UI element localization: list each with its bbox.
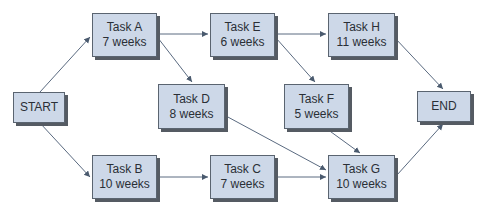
node-duration: 10 weeks (99, 177, 150, 192)
network-diagram: START Task A 7 weeks Task B 10 weeks Tas… (0, 0, 483, 209)
node-end: END (417, 91, 471, 122)
node-task-f: Task F 5 weeks (284, 84, 349, 129)
edge-start-a (40, 37, 90, 92)
node-task-a: Task A 7 weeks (92, 13, 157, 57)
node-task-b: Task B 10 weeks (92, 155, 157, 199)
node-task-g: Task G 10 weeks (328, 155, 395, 199)
edge-a-d (158, 38, 192, 82)
node-duration: 7 weeks (220, 177, 264, 192)
node-label: Task H (343, 20, 380, 35)
edge-g-end (397, 124, 443, 175)
edge-f-g (327, 129, 360, 153)
node-duration: 7 weeks (102, 35, 146, 50)
node-label: START (20, 100, 58, 115)
node-task-c: Task C 7 weeks (210, 155, 275, 199)
node-label: Task D (173, 92, 210, 107)
node-duration: 10 weeks (336, 177, 387, 192)
node-label: Task F (299, 92, 334, 107)
node-label: Task G (343, 162, 380, 177)
node-duration: 8 weeks (169, 107, 213, 122)
node-label: Task C (224, 162, 261, 177)
node-duration: 5 weeks (294, 107, 338, 122)
node-task-h: Task H 11 weeks (328, 13, 395, 57)
node-start: START (13, 92, 65, 123)
node-duration: 6 weeks (220, 35, 264, 50)
edge-e-f (276, 38, 315, 82)
node-label: END (431, 99, 456, 114)
node-duration: 11 weeks (337, 35, 387, 50)
node-label: Task E (224, 20, 260, 35)
edge-h-end (395, 38, 443, 89)
node-label: Task A (107, 20, 142, 35)
node-task-d: Task D 8 weeks (158, 84, 225, 129)
edge-start-b (40, 123, 90, 177)
node-label: Task B (106, 162, 142, 177)
node-task-e: Task E 6 weeks (210, 13, 275, 57)
